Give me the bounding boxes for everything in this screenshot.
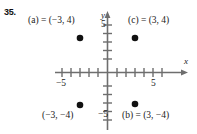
x-axis-tick-label-minus-5: −5 xyxy=(56,79,66,89)
data-point-a xyxy=(77,35,84,42)
exercise-figure: 35. xyxy=(0,0,197,134)
x-axis-tick-label-5: 5 xyxy=(151,79,156,89)
y-axis-arrowhead xyxy=(105,11,111,18)
x-axis xyxy=(55,70,188,76)
point-label-c: (c) = (3, 4) xyxy=(128,16,169,26)
point-label-a: (a) = (−3, 4) xyxy=(28,16,75,26)
x-axis-label: x xyxy=(184,57,188,66)
point-label-b: (b) = (3, −4) xyxy=(122,111,169,121)
y-axis-tick-label-minus-5: −5 xyxy=(98,110,108,120)
data-point-c xyxy=(132,35,139,42)
x-axis-arrowhead xyxy=(181,70,188,76)
y-axis-tick-label-5: 5 xyxy=(101,20,106,30)
data-point-d xyxy=(77,102,84,109)
point-label-d: (−3, −4) xyxy=(42,111,73,121)
data-point-b xyxy=(132,101,139,108)
